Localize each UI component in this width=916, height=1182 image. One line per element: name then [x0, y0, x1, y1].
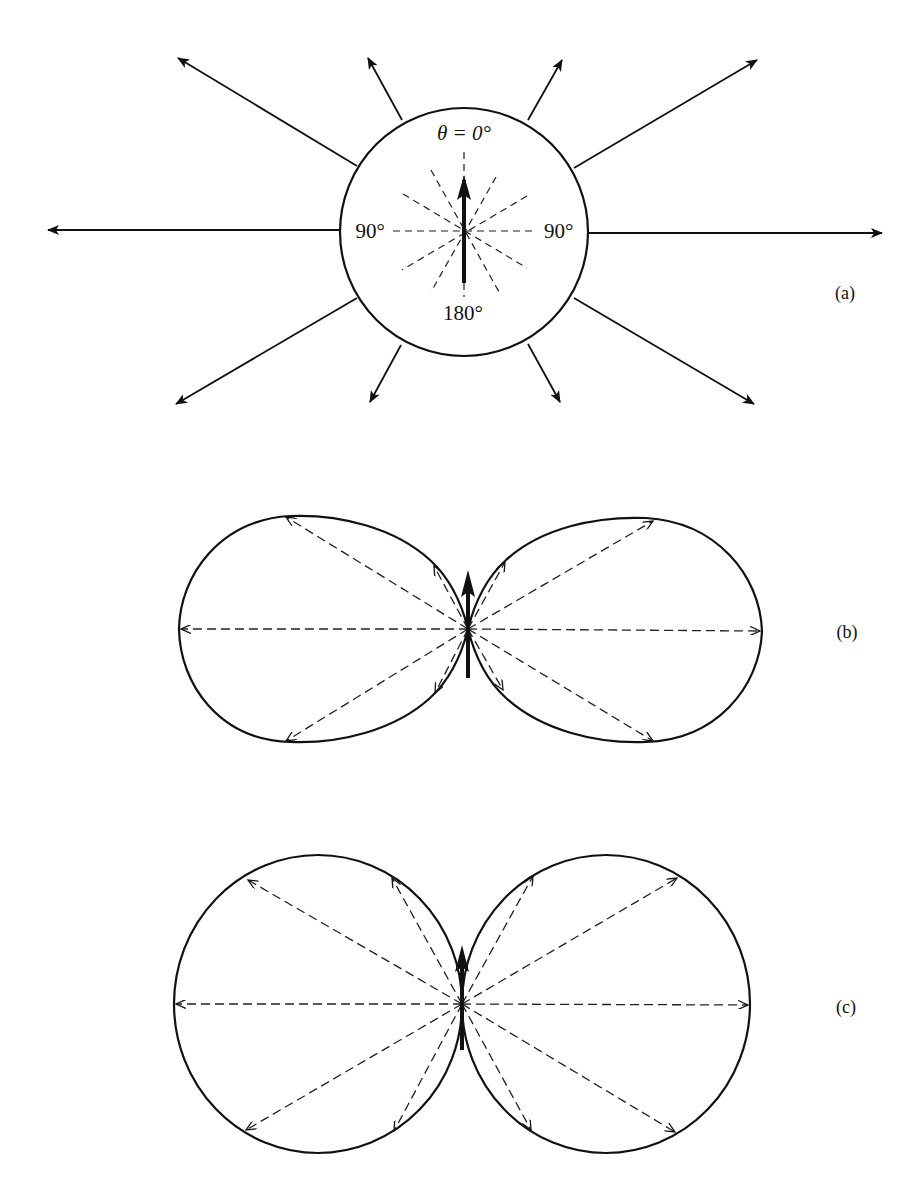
- arrow-up-right-icon: [528, 60, 562, 120]
- radiation-pattern-figure: θ = 0° 90° 90° 180° (a) (b): [0, 0, 916, 1182]
- arrow-lower-right-icon: [574, 298, 754, 404]
- arrow-upper-right-icon: [574, 60, 757, 168]
- panel-b: (b): [179, 516, 858, 742]
- dashed-vectors-b: [181, 517, 760, 741]
- arrow-upper-left-icon: [178, 58, 357, 166]
- bottom-180-label: 180°: [443, 301, 483, 325]
- arrow-down-right-icon: [528, 344, 560, 402]
- panel-b-label: (b): [837, 622, 858, 643]
- panel-a-label: (a): [835, 283, 855, 304]
- arrow-down-left-icon: [370, 345, 401, 402]
- panel-c-label: (c): [836, 997, 856, 1018]
- right-90-label: 90°: [544, 219, 573, 243]
- theta-zero-label: θ = 0°: [437, 121, 491, 145]
- panel-c: (c): [174, 855, 856, 1153]
- left-90-label: 90°: [356, 219, 385, 243]
- arrow-up-left-icon: [368, 58, 402, 120]
- panel-a: θ = 0° 90° 90° 180° (a): [48, 58, 882, 404]
- arrow-lower-left-icon: [176, 298, 357, 404]
